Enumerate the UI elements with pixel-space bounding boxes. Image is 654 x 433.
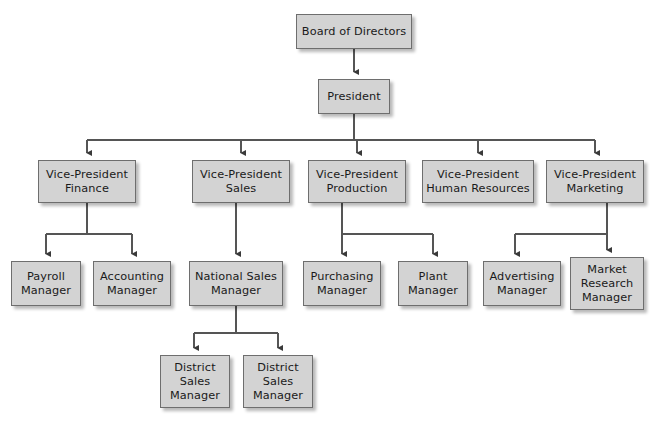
- node-label: Advertising Manager: [484, 270, 560, 298]
- node-purchasing-manager[interactable]: Purchasing Manager: [303, 261, 381, 306]
- connector-layer: [0, 0, 654, 433]
- node-plant-manager[interactable]: Plant Manager: [398, 261, 468, 306]
- node-label: Payroll Manager: [12, 270, 80, 298]
- node-label: Market Research Manager: [571, 263, 643, 305]
- node-label: District Sales Manager: [161, 361, 229, 403]
- node-label: Board of Directors: [297, 25, 411, 39]
- node-label: District Sales Manager: [244, 361, 312, 403]
- node-label: Accounting Manager: [94, 270, 170, 298]
- node-label: Vice-President Human Resources: [423, 168, 533, 196]
- node-label: Vice-President Finance: [39, 168, 135, 196]
- node-label: Vice-President Production: [309, 168, 405, 196]
- node-label: President: [319, 90, 389, 104]
- node-payroll-manager[interactable]: Payroll Manager: [11, 261, 81, 306]
- node-board-of-directors[interactable]: Board of Directors: [296, 14, 412, 49]
- node-national-sales-manager[interactable]: National Sales Manager: [189, 261, 283, 306]
- node-label: Vice-President Marketing: [547, 168, 643, 196]
- node-president[interactable]: President: [318, 79, 390, 114]
- org-chart: Board of Directors President Vice-Presid…: [0, 0, 654, 433]
- node-vice-president-human-resources[interactable]: Vice-President Human Resources: [422, 160, 534, 203]
- node-district-sales-manager-1[interactable]: District Sales Manager: [160, 355, 230, 408]
- node-district-sales-manager-2[interactable]: District Sales Manager: [243, 355, 313, 408]
- node-market-research-manager[interactable]: Market Research Manager: [570, 257, 644, 310]
- node-accounting-manager[interactable]: Accounting Manager: [93, 261, 171, 306]
- node-label: Vice-President Sales: [193, 168, 289, 196]
- node-label: Plant Manager: [399, 270, 467, 298]
- node-vice-president-production[interactable]: Vice-President Production: [308, 160, 406, 203]
- node-vice-president-sales[interactable]: Vice-President Sales: [192, 160, 290, 203]
- node-vice-president-marketing[interactable]: Vice-President Marketing: [546, 160, 644, 203]
- node-label: National Sales Manager: [190, 270, 282, 298]
- node-advertising-manager[interactable]: Advertising Manager: [483, 261, 561, 306]
- node-label: Purchasing Manager: [304, 270, 380, 298]
- node-vice-president-finance[interactable]: Vice-President Finance: [38, 160, 136, 203]
